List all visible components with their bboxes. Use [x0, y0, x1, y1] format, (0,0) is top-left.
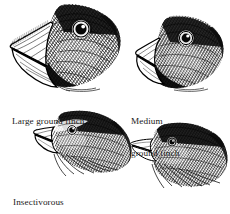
large-ground-finch-illustration — [4, 2, 122, 92]
caption-medium-ground-finch-line1: Medium — [131, 116, 179, 127]
caption-insectivorous-tree-finch-line1: Insectivorous — [13, 197, 64, 208]
caption-large-ground-finch: Large ground finch — [12, 95, 85, 148]
medium-ground-finch-illustration — [126, 14, 226, 92]
caption-warbler-finch: Warbler finch — [152, 191, 204, 214]
large-finch-eye — [70, 18, 91, 39]
darwin-finches-figure: Large ground finch Medium ground finch I… — [0, 0, 230, 214]
medium-finch-eye — [177, 29, 195, 47]
caption-medium-ground-finch: Medium ground finch — [131, 95, 179, 179]
caption-large-ground-finch-line1: Large ground finch — [12, 116, 85, 127]
caption-insectivorous-tree-finch: Insectivorous tree finch — [13, 176, 64, 214]
caption-warbler-finch-line1: Warbler finch — [152, 212, 204, 214]
caption-medium-ground-finch-line2: ground finch — [131, 148, 179, 159]
